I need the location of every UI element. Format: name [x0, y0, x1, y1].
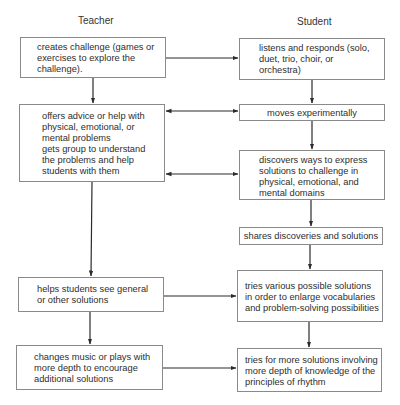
student-box-text: listens and responds (solo, duet, trio, …	[259, 43, 384, 76]
teacher-box-text: changes music or plays with more depth t…	[34, 352, 162, 385]
teacher-box-create-challenge: creates challenge (games or exercises to…	[20, 37, 166, 78]
student-box-try-various-solutions: tries various possible solutions in orde…	[237, 270, 383, 322]
student-box-text: shares discoveries and solutions	[240, 231, 382, 242]
student-box-share-discoveries: shares discoveries and solutions	[239, 227, 383, 245]
student-box-text: tries various possible solutions in orde…	[245, 281, 382, 314]
student-box-listen-respond: listens and responds (solo, duet, trio, …	[239, 38, 385, 80]
student-box-try-more-solutions: tries for more solutions involving more …	[237, 348, 382, 392]
teacher-box-offer-advice: offers advice or help with physical, emo…	[19, 104, 165, 182]
student-box-text: moves experimentally	[240, 108, 384, 119]
teacher-box-change-music: changes music or plays with more depth t…	[16, 345, 163, 390]
arrow-t2-t3	[91, 182, 92, 276]
teacher-box-text: creates challenge (games or exercises to…	[37, 42, 165, 75]
student-box-text: discovers ways to express solutions to c…	[259, 155, 384, 199]
student-box-discover-ways: discovers ways to express solutions to c…	[239, 150, 385, 200]
student-box-text: tries for more solutions involving more …	[245, 355, 381, 388]
student-box-move-experimentally: moves experimentally	[239, 104, 385, 121]
teacher-box-help-see-solutions: helps students see general or other solu…	[18, 277, 164, 312]
teacher-box-text: offers advice or help with physical, emo…	[42, 111, 164, 177]
teacher-box-text: helps students see general or other solu…	[37, 284, 163, 306]
